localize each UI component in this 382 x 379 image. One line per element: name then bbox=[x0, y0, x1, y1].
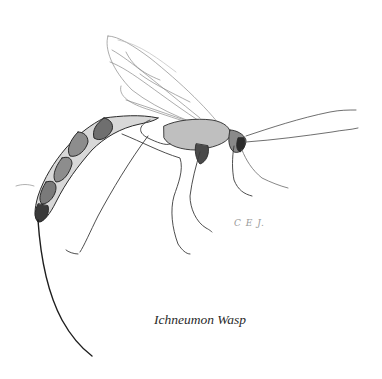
figure-caption: Ichneumon Wasp bbox=[0, 312, 382, 328]
antennae bbox=[246, 110, 358, 142]
tail-filament bbox=[16, 185, 34, 187]
abdomen bbox=[35, 116, 158, 222]
artist-signature: C E J. bbox=[234, 218, 265, 228]
ovipositor bbox=[38, 220, 92, 356]
illustration-page: C E J. Ichneumon Wasp bbox=[0, 0, 382, 379]
